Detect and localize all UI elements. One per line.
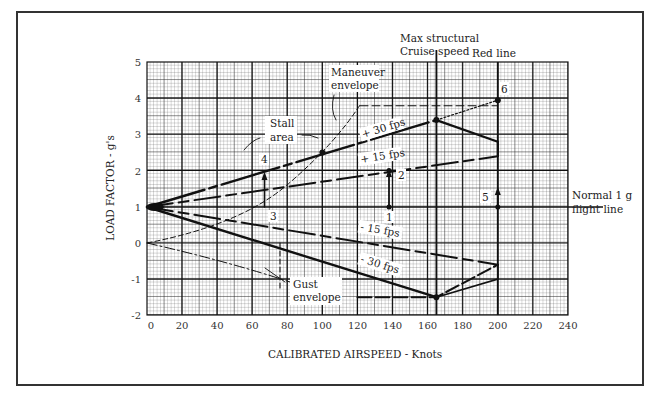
svg-text:-1: -1	[131, 274, 141, 285]
svg-text:5: 5	[135, 57, 141, 68]
svg-text:80: 80	[281, 320, 294, 331]
svg-text:220: 220	[523, 320, 542, 331]
point-3-label: 3	[270, 210, 277, 222]
gust-label-line2: envelope	[293, 291, 341, 303]
red-line-label: Red line	[472, 47, 516, 59]
maneuver-label-line1: Maneuver	[331, 66, 386, 78]
svg-text:100: 100	[313, 320, 332, 331]
point-6-label: 6	[501, 83, 508, 95]
v-n-diagram: 5 4 3 2 1 0 -1 -2 0 20 40 60 80 100 120 …	[0, 0, 659, 404]
x-axis-title: CALIBRATED AIRSPEED - Knots	[268, 348, 442, 360]
point-4-label: 4	[261, 153, 268, 165]
normal-1g-label-line1: Normal 1 g	[572, 189, 632, 201]
y-axis-title: LOAD FACTOR - g's	[104, 135, 116, 241]
svg-text:3: 3	[135, 129, 141, 140]
point-1-label: 1	[386, 211, 393, 223]
svg-text:200: 200	[488, 320, 507, 331]
svg-text:240: 240	[558, 320, 577, 331]
svg-text:40: 40	[211, 320, 224, 331]
svg-text:180: 180	[453, 320, 472, 331]
svg-text:120: 120	[348, 320, 367, 331]
point-5-label: 5	[482, 191, 489, 203]
stall-label-line1: Stall	[270, 117, 295, 129]
svg-text:0: 0	[148, 320, 154, 331]
svg-text:2: 2	[135, 166, 141, 177]
vc-label-line1: Max structural	[400, 32, 480, 44]
svg-text:140: 140	[383, 320, 402, 331]
svg-text:60: 60	[246, 320, 259, 331]
gust-label-line1: Gust	[293, 278, 319, 290]
stall-label-line2: area	[270, 131, 294, 143]
svg-text:1: 1	[135, 202, 141, 213]
svg-text:-2: -2	[131, 310, 141, 321]
vc-label-line2: Cruise speed	[400, 45, 470, 57]
svg-text:0: 0	[135, 238, 141, 249]
y-axis-ticks: 5 4 3 2 1 0 -1 -2	[131, 57, 141, 321]
svg-text:4: 4	[135, 93, 141, 104]
svg-text:160: 160	[418, 320, 437, 331]
svg-text:20: 20	[176, 320, 189, 331]
maneuver-label-line2: envelope	[331, 79, 379, 91]
normal-1g-label-line2: flight line	[572, 203, 623, 215]
x-axis-ticks: 0 20 40 60 80 100 120 140 160 180 200 22…	[148, 320, 578, 331]
point-2-label: 2	[398, 169, 405, 181]
